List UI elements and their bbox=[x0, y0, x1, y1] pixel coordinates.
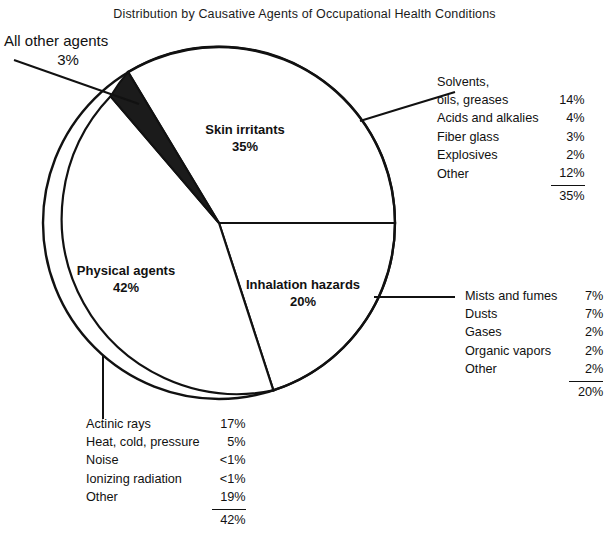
legend-row: Mists and fumes 7% bbox=[465, 290, 603, 308]
legend-total-label bbox=[437, 186, 551, 209]
legend-row: Other 12% bbox=[437, 167, 585, 186]
legend-label: Other bbox=[465, 363, 569, 382]
legend-label: Dusts bbox=[465, 308, 569, 326]
slice-label-inhalation-hazards-value: 20% bbox=[228, 294, 378, 311]
legend-label: Actinic rays bbox=[86, 418, 212, 436]
legend-row: Actinic rays 17% bbox=[86, 418, 246, 436]
legend-row: Ionizing radiation <1% bbox=[86, 473, 246, 491]
legend-total-row: 20% bbox=[465, 382, 603, 405]
legend-label: Other bbox=[86, 491, 212, 510]
legend-physical-agents-table: Actinic rays 17% Heat, cold, pressure 5%… bbox=[86, 418, 246, 532]
slice-label-inhalation-hazards: Inhalation hazards 20% bbox=[228, 277, 378, 310]
legend-row: Other 2% bbox=[465, 363, 603, 382]
legend-label: Gases bbox=[465, 326, 569, 344]
legend-physical-agents: Actinic rays 17% Heat, cold, pressure 5%… bbox=[86, 418, 246, 532]
legend-label: oils, greases bbox=[437, 94, 551, 112]
legend-value: 4% bbox=[551, 112, 585, 130]
slice-label-skin-irritants-name: Skin irritants bbox=[175, 122, 315, 139]
legend-row: Fiber glass 3% bbox=[437, 131, 585, 149]
legend-total-label bbox=[465, 382, 569, 405]
legend-label: Fiber glass bbox=[437, 131, 551, 149]
legend-row: Heat, cold, pressure 5% bbox=[86, 436, 246, 454]
legend-row: oils, greases 14% bbox=[437, 94, 585, 112]
callout-all-other-agents: All other agents 3% bbox=[4, 32, 132, 69]
legend-label: Acids and alkalies bbox=[437, 112, 551, 130]
legend-label: Noise bbox=[86, 454, 212, 472]
legend-row: Other 19% bbox=[86, 491, 246, 510]
legend-value: 19% bbox=[212, 491, 246, 510]
legend-value: 2% bbox=[551, 149, 585, 167]
legend-value: <1% bbox=[212, 454, 246, 472]
legend-value: 7% bbox=[569, 308, 603, 326]
pie-chart-figure: Distribution by Causative Agents of Occu… bbox=[0, 0, 609, 553]
legend-label: Heat, cold, pressure bbox=[86, 436, 212, 454]
legend-row: Acids and alkalies 4% bbox=[437, 112, 585, 130]
slice-label-skin-irritants: Skin irritants 35% bbox=[175, 122, 315, 155]
callout-all-other-agents-name: All other agents bbox=[4, 32, 108, 49]
legend-total-value: 42% bbox=[212, 510, 246, 533]
legend-label: Mists and fumes bbox=[465, 290, 569, 308]
legend-value: 14% bbox=[551, 94, 585, 112]
legend-total-label bbox=[86, 510, 212, 533]
legend-row: Gases 2% bbox=[465, 326, 603, 344]
legend-value: 3% bbox=[551, 131, 585, 149]
legend-total-row: 42% bbox=[86, 510, 246, 533]
legend-inhalation-hazards-table: Mists and fumes 7% Dusts 7% Gases 2% Org… bbox=[465, 290, 603, 404]
legend-row: Solvents, bbox=[437, 76, 585, 94]
slice-label-skin-irritants-value: 35% bbox=[175, 139, 315, 156]
legend-value bbox=[551, 76, 585, 94]
legend-label: Solvents, bbox=[437, 76, 551, 94]
legend-inhalation-hazards: Mists and fumes 7% Dusts 7% Gases 2% Org… bbox=[465, 290, 603, 404]
legend-row: Explosives 2% bbox=[437, 149, 585, 167]
legend-skin-irritants-table: Solvents, oils, greases 14% Acids and al… bbox=[437, 76, 585, 209]
legend-label: Explosives bbox=[437, 149, 551, 167]
legend-total-value: 20% bbox=[569, 382, 603, 405]
legend-total-row: 35% bbox=[437, 186, 585, 209]
legend-label: Ionizing radiation bbox=[86, 473, 212, 491]
legend-row: Organic vapors 2% bbox=[465, 345, 603, 363]
legend-value: 5% bbox=[212, 436, 246, 454]
slice-label-physical-agents-value: 42% bbox=[56, 280, 196, 297]
legend-value: 2% bbox=[569, 345, 603, 363]
legend-label: Organic vapors bbox=[465, 345, 569, 363]
legend-row: Dusts 7% bbox=[465, 308, 603, 326]
legend-value: <1% bbox=[212, 473, 246, 491]
legend-value: 2% bbox=[569, 326, 603, 344]
legend-value: 7% bbox=[569, 290, 603, 308]
legend-label: Other bbox=[437, 167, 551, 186]
legend-total-value: 35% bbox=[551, 186, 585, 209]
legend-row: Noise <1% bbox=[86, 454, 246, 472]
slice-label-physical-agents: Physical agents 42% bbox=[56, 263, 196, 296]
legend-skin-irritants: Solvents, oils, greases 14% Acids and al… bbox=[437, 76, 585, 209]
legend-value: 12% bbox=[551, 167, 585, 186]
legend-value: 17% bbox=[212, 418, 246, 436]
slice-label-inhalation-hazards-name: Inhalation hazards bbox=[228, 277, 378, 294]
legend-value: 2% bbox=[569, 363, 603, 382]
callout-all-other-agents-value: 3% bbox=[4, 51, 132, 69]
slice-label-physical-agents-name: Physical agents bbox=[56, 263, 196, 280]
